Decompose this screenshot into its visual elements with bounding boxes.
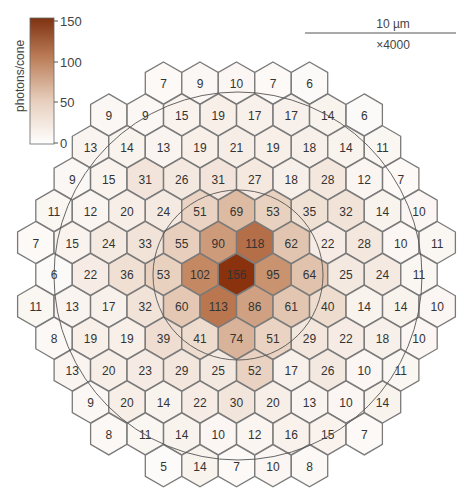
cone-photon-count: 20 — [266, 396, 280, 410]
cone-mosaic-figure: 150 100 50 0 photons/cone 10 µm ×4000 79… — [0, 0, 470, 495]
cone-photon-count: 31 — [212, 173, 226, 187]
cone-photon-count: 39 — [157, 332, 171, 346]
cone-photon-count: 86 — [248, 300, 262, 314]
cone-photon-count: 9 — [105, 109, 112, 123]
cone-photon-count: 6 — [306, 77, 313, 91]
scale-bar-magnification: ×4000 — [376, 38, 410, 52]
cone-photon-count: 156 — [226, 268, 246, 282]
cone-photon-count: 60 — [175, 300, 189, 314]
cone-photon-count: 32 — [139, 300, 153, 314]
cone-photon-count: 53 — [157, 268, 171, 282]
cone-photon-count: 19 — [266, 141, 280, 155]
cone-photon-count: 23 — [139, 364, 153, 378]
cone-photon-count: 61 — [285, 300, 299, 314]
cone-photon-count: 5 — [160, 460, 167, 474]
cone-photon-count: 10 — [339, 396, 353, 410]
cone-photon-count: 10 — [431, 300, 445, 314]
cone-photon-count: 17 — [102, 300, 116, 314]
cone-photon-count: 40 — [321, 300, 335, 314]
cone-photon-count: 25 — [212, 364, 226, 378]
cone-photon-count: 10 — [230, 77, 244, 91]
cone-photon-count: 113 — [209, 300, 228, 314]
cone-photon-count: 14 — [376, 396, 390, 410]
cone-photon-count: 8 — [51, 332, 58, 346]
cone-photon-count: 10 — [394, 237, 408, 251]
cone-photon-count: 24 — [376, 268, 390, 282]
cone-photon-count: 20 — [120, 205, 134, 219]
cone-photon-count: 19 — [212, 109, 226, 123]
hex-cone-grid: 7910769915191717146131413192119181411915… — [18, 62, 456, 487]
cone-photon-count: 14 — [376, 205, 390, 219]
cone-photon-count: 24 — [157, 205, 171, 219]
cone-photon-count: 16 — [285, 428, 299, 442]
cone-photon-count: 9 — [197, 77, 204, 91]
colorbar-tick-50: 50 — [60, 95, 74, 110]
cone-photon-count: 12 — [248, 428, 262, 442]
cone-photon-count: 11 — [395, 364, 408, 378]
cone-photon-count: 15 — [321, 428, 335, 442]
cone-photon-count: 27 — [248, 173, 262, 187]
cone-photon-count: 22 — [193, 396, 207, 410]
cone-photon-count: 19 — [193, 141, 207, 155]
colorbar-tick-0: 0 — [60, 136, 67, 151]
cone-photon-count: 14 — [120, 141, 134, 155]
cone-photon-count: 13 — [66, 300, 80, 314]
cone-photon-count: 11 — [376, 141, 389, 155]
cone-photon-count: 7 — [233, 460, 240, 474]
cone-photon-count: 24 — [102, 237, 116, 251]
cone-photon-count: 21 — [230, 141, 244, 155]
cone-photon-count: 10 — [266, 460, 280, 474]
cone-photon-count: 22 — [339, 332, 353, 346]
cone-photon-count: 17 — [285, 109, 299, 123]
colorbar-tick-100: 100 — [60, 55, 82, 70]
cone-photon-count: 14 — [193, 460, 207, 474]
cone-photon-count: 9 — [87, 396, 94, 410]
cone-photon-count: 19 — [84, 332, 98, 346]
cone-photon-count: 11 — [30, 300, 43, 314]
cone-photon-count: 19 — [120, 332, 134, 346]
scale-bar: 10 µm ×4000 — [305, 17, 456, 52]
cone-photon-count: 51 — [193, 205, 207, 219]
cone-photon-count: 52 — [248, 364, 262, 378]
cone-photon-count: 26 — [321, 364, 335, 378]
cone-photon-count: 14 — [394, 300, 408, 314]
cone-photon-count: 15 — [175, 109, 189, 123]
cone-photon-count: 29 — [175, 364, 189, 378]
cone-photon-count: 17 — [285, 364, 299, 378]
cone-photon-count: 30 — [230, 396, 244, 410]
cone-photon-count: 15 — [102, 173, 116, 187]
cone-photon-count: 64 — [303, 268, 317, 282]
cone-photon-count: 6 — [361, 109, 368, 123]
cone-photon-count: 22 — [84, 268, 98, 282]
cone-photon-count: 14 — [175, 428, 189, 442]
cone-photon-count: 15 — [66, 237, 80, 251]
cone-photon-count: 10 — [212, 428, 226, 442]
cone-photon-count: 13 — [303, 396, 317, 410]
cone-photon-count: 62 — [285, 237, 299, 251]
cone-photon-count: 14 — [358, 300, 372, 314]
cone-photon-count: 14 — [339, 141, 353, 155]
cone-photon-count: 22 — [321, 237, 335, 251]
scale-bar-length: 10 µm — [376, 17, 410, 31]
colorbar-gradient — [30, 18, 54, 144]
cone-photon-count: 53 — [266, 205, 280, 219]
cone-photon-count: 28 — [358, 237, 372, 251]
cone-photon-count: 8 — [306, 460, 313, 474]
cone-photon-count: 11 — [48, 205, 61, 219]
cone-photon-count: 32 — [339, 205, 353, 219]
cone-photon-count: 11 — [431, 237, 444, 251]
cone-photon-count: 74 — [230, 332, 244, 346]
cone-photon-count: 18 — [376, 332, 390, 346]
cone-photon-count: 102 — [190, 268, 210, 282]
cone-photon-count: 17 — [248, 109, 262, 123]
cone-photon-count: 31 — [139, 173, 153, 187]
cone-photon-count: 69 — [230, 205, 244, 219]
colorbar: 150 100 50 0 photons/cone — [13, 14, 82, 151]
cone-photon-count: 26 — [175, 173, 189, 187]
cone-photon-count: 55 — [175, 237, 189, 251]
cone-photon-count: 13 — [157, 141, 171, 155]
cone-photon-count: 7 — [160, 77, 167, 91]
cone-photon-count: 20 — [102, 364, 116, 378]
cone-photon-count: 95 — [266, 268, 280, 282]
cone-photon-count: 51 — [266, 332, 280, 346]
